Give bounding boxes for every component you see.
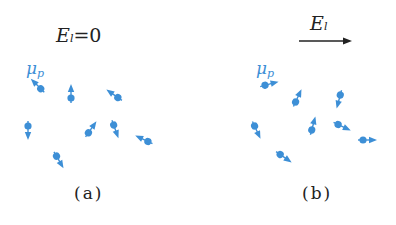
dipole-arrow-icon [259, 78, 279, 90]
dipoles-panel-b [249, 78, 377, 165]
dipole-arrow-icon [104, 87, 124, 104]
dipole-arrow-icon [134, 132, 154, 147]
dipole-arrow-icon [249, 120, 264, 140]
dipole-arrow-icon [332, 119, 352, 134]
dipole-arrow-icon [83, 119, 100, 139]
dipole-arrow-icon [274, 149, 294, 166]
dipole-arrow-icon [24, 121, 31, 140]
dipole-arrow-icon [333, 89, 345, 109]
field-arrow-icon [299, 38, 352, 45]
dipole-diagram [0, 0, 396, 225]
dipoles-panel-a [24, 76, 154, 170]
dipole-arrow-icon [307, 116, 319, 136]
dipole-arrow-icon [358, 136, 377, 143]
dipole-arrow-icon [67, 84, 74, 103]
dipole-arrow-icon [28, 76, 47, 95]
dipole-arrow-icon [51, 150, 67, 170]
dipole-arrow-icon [290, 88, 305, 108]
dipole-arrow-icon [109, 119, 122, 139]
